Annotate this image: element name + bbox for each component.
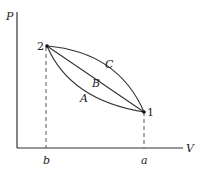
pv-diagram: P V C B A 2 1 b a xyxy=(0,0,199,169)
path-a-label: A xyxy=(79,92,88,105)
tick-b-label: b xyxy=(43,154,50,167)
v-axis-label: V xyxy=(186,142,195,155)
point-2 xyxy=(45,44,49,48)
tick-a-label: a xyxy=(141,154,148,167)
point-1 xyxy=(142,110,146,114)
point-1-label: 1 xyxy=(147,106,154,119)
path-c-label: C xyxy=(105,58,114,71)
p-axis-label: P xyxy=(5,10,14,23)
point-2-label: 2 xyxy=(37,40,44,53)
path-b-label: B xyxy=(91,77,100,90)
